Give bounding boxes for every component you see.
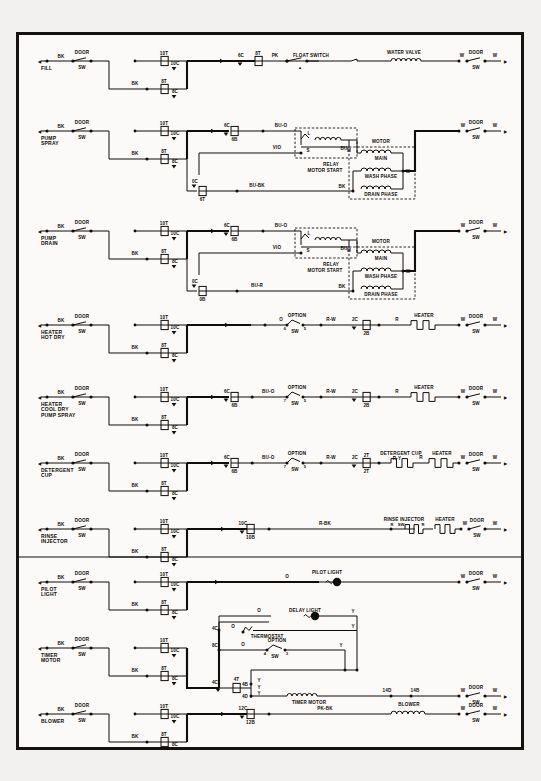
door-switch-right[interactable] xyxy=(465,711,486,716)
wire-label-relay-bot: BU-BK xyxy=(249,183,265,188)
terminal-block-upper[interactable] xyxy=(161,709,168,718)
door-switch-right[interactable] xyxy=(465,579,486,584)
terminal-block-lower[interactable] xyxy=(161,605,168,614)
term-2b-label: 2B xyxy=(363,331,370,336)
door-switch-right[interactable] xyxy=(465,693,486,698)
opt-out-dot xyxy=(320,462,323,465)
term-4t-label: 4T xyxy=(234,677,240,682)
door-switch-left[interactable] xyxy=(71,128,92,133)
terminal-block-upper[interactable] xyxy=(161,458,168,467)
terminal-block-lower[interactable] xyxy=(161,154,168,163)
door-switch-right[interactable] xyxy=(465,228,486,233)
motor-coil-wash-label: WASH PHASE xyxy=(365,174,397,179)
option-label: OPTION xyxy=(288,385,307,390)
door-label: DOOR xyxy=(75,386,90,391)
terminal-4t[interactable] xyxy=(233,683,240,692)
row-blower: ◀BKDOORSWBLOWERBK10T10C8T8C12C12BPK-BKBL… xyxy=(37,702,508,747)
opt-out-dot xyxy=(320,324,323,327)
terminal-6b[interactable] xyxy=(231,458,238,467)
terminal-arrow-lower xyxy=(172,431,177,435)
term-6c-arrow xyxy=(224,464,229,468)
sw-label-right: SW xyxy=(472,586,480,591)
terminal-lower-branch[interactable] xyxy=(199,286,206,295)
door-switch-left[interactable] xyxy=(71,58,92,63)
rail-dot xyxy=(46,528,49,531)
thermostat-switch[interactable] xyxy=(242,627,253,634)
wire-label-o: O xyxy=(285,574,289,579)
terminal-block-upper[interactable] xyxy=(161,126,168,135)
door-switch-left[interactable] xyxy=(71,526,92,531)
term-6c-arrow xyxy=(238,62,243,66)
term-6c: 6C xyxy=(238,53,245,58)
terminal-block-upper[interactable] xyxy=(161,524,168,533)
terminal-6b[interactable] xyxy=(231,126,238,135)
terminal-arrow-lower xyxy=(172,563,177,567)
wire-label-bk: BK xyxy=(58,54,65,59)
heater-feed-dot xyxy=(378,396,381,399)
wire-label-bk-mid: BK xyxy=(132,668,139,673)
terminal-label-top: 10T xyxy=(160,315,168,320)
door-switch-left[interactable] xyxy=(71,228,92,233)
door-switch-left[interactable] xyxy=(71,711,92,716)
wire-label-bk: BK xyxy=(58,124,65,129)
terminal-6b[interactable] xyxy=(231,226,238,235)
terminal-block-lower[interactable] xyxy=(161,671,168,680)
terminal-block-upper[interactable] xyxy=(161,56,168,65)
door-switch-right[interactable] xyxy=(465,58,486,63)
terminal-block-lower[interactable] xyxy=(161,420,168,429)
term-6b-label: 6B xyxy=(231,403,238,408)
door-switch-left[interactable] xyxy=(71,460,92,465)
option-term-num-2: 5 xyxy=(304,326,307,331)
motor-title: MOTOR xyxy=(372,239,390,244)
door-switch-left[interactable] xyxy=(71,394,92,399)
terminal-2b[interactable] xyxy=(363,320,370,329)
wire-label-w-end: W xyxy=(493,688,498,693)
terminal-label-top: 10T xyxy=(160,638,168,643)
door-switch-right[interactable] xyxy=(465,128,486,133)
sw-label: SW xyxy=(78,586,86,591)
row-rinse-injector: ◀BKDOORSWRINSEINJECTORBK10T10C8T8C10C10B… xyxy=(37,517,508,567)
term-2b-label: 2T xyxy=(364,469,370,474)
terminal-2b[interactable] xyxy=(363,458,370,467)
upper-feed-dot xyxy=(134,647,137,650)
valve-lead xyxy=(351,59,357,61)
wiring-diagram-svg: ◀BKDOORSWFILLBK10T10C8T8C6C8TPKFLOAT SWI… xyxy=(19,35,521,747)
option-num-1: 4 xyxy=(264,651,267,656)
terminal-2b[interactable] xyxy=(363,392,370,401)
terminal-block-upper[interactable] xyxy=(161,226,168,235)
door-switch-left[interactable] xyxy=(71,322,92,327)
terminal-block-upper[interactable] xyxy=(161,392,168,401)
terminal-block-upper[interactable] xyxy=(161,320,168,329)
terminal-10b[interactable] xyxy=(247,524,254,533)
heater-label: HEATER xyxy=(435,517,455,522)
coil-windings xyxy=(391,59,421,62)
door-switch-right[interactable] xyxy=(465,322,486,327)
door-switch-left[interactable] xyxy=(71,645,92,650)
door-switch-right[interactable] xyxy=(465,460,486,465)
terminal-block-lower[interactable] xyxy=(161,84,168,93)
terminal-block-lower[interactable] xyxy=(161,737,168,746)
terminal-arrow-upper xyxy=(172,137,177,141)
left-arrow-head: ◀ xyxy=(37,229,42,234)
terminal-lower-branch[interactable] xyxy=(199,186,206,195)
door-switch-left[interactable] xyxy=(71,579,92,584)
door-switch-right[interactable] xyxy=(467,526,486,531)
upper-feed-dot xyxy=(134,581,137,584)
float-switch[interactable] xyxy=(285,58,308,63)
wire-label-relay-top: BU-O xyxy=(275,123,288,128)
terminal-block-lower[interactable] xyxy=(161,254,168,263)
terminal-block-upper[interactable] xyxy=(161,577,168,586)
row-heater-hot-dry: ◀BKDOORSWHEATERHOT DRYBK10T10C8T8COOPTIO… xyxy=(37,313,508,363)
terminal-12b[interactable] xyxy=(247,709,254,718)
terminal-label-lower-out: 8C xyxy=(172,610,179,615)
wire-label-w-in: W xyxy=(461,574,466,579)
terminal-block-upper[interactable] xyxy=(161,643,168,652)
heater-feed-dot xyxy=(378,324,381,327)
term-6c: 6C xyxy=(224,455,231,460)
terminal-block-lower[interactable] xyxy=(161,486,168,495)
door-switch-right[interactable] xyxy=(465,394,486,399)
motor-coil-drain xyxy=(361,186,391,189)
terminal-block-lower[interactable] xyxy=(161,348,168,357)
terminal-6b[interactable] xyxy=(231,392,238,401)
terminal-8t[interactable] xyxy=(255,56,262,65)
